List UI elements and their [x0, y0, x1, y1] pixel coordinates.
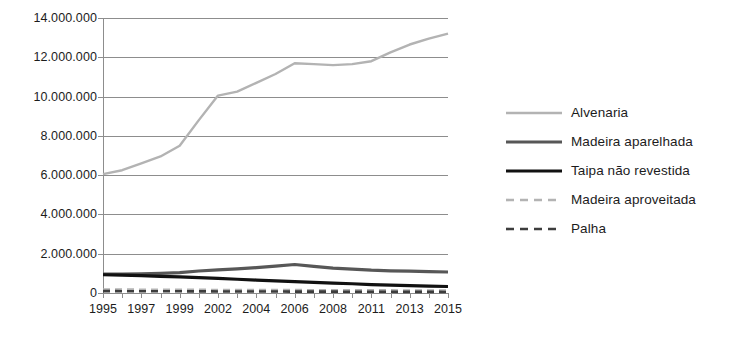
y-axis-tick-label: 4.000.000	[40, 207, 97, 221]
y-axis-tick-label: 10.000.000	[33, 90, 97, 104]
y-axis-tick-label: 14.000.000	[33, 11, 97, 25]
x-axis-tick-label: 1997	[127, 302, 155, 316]
series-line-taipa-no-revestida	[103, 275, 448, 287]
x-tick-mark	[276, 293, 277, 298]
x-axis-tick-label: 1995	[89, 302, 117, 316]
x-axis-tick-label: 1999	[166, 302, 194, 316]
series-line-palha	[103, 291, 448, 292]
y-axis-tick-label: 6.000.000	[40, 168, 97, 182]
legend-swatch-icon	[506, 164, 562, 178]
x-tick-mark	[410, 293, 411, 298]
series-line-alvenaria	[103, 34, 448, 174]
y-axis-tick-label: 8.000.000	[40, 129, 97, 143]
x-tick-mark	[180, 293, 181, 298]
legend-swatch-icon	[506, 222, 562, 236]
legend-item-label: Madeira aparelhada	[571, 134, 693, 149]
x-tick-mark	[333, 293, 334, 298]
x-tick-mark	[141, 293, 142, 298]
legend-item-label: Taipa não revestida	[571, 163, 690, 178]
x-axis-tick-label: 2006	[281, 302, 309, 316]
plot-area	[103, 18, 448, 293]
x-axis-tick-label: 2008	[319, 302, 347, 316]
x-tick-mark	[352, 293, 353, 298]
x-axis-tick-label: 2004	[242, 302, 270, 316]
x-tick-mark	[314, 293, 315, 298]
x-tick-mark	[199, 293, 200, 298]
y-axis-tick-label: 0	[90, 286, 97, 300]
x-tick-mark	[161, 293, 162, 298]
line-chart-figure: 02.000.0004.000.0006.000.0008.000.00010.…	[0, 0, 500, 338]
legend-swatch-icon	[506, 135, 562, 149]
x-axis-tick-label: 2013	[396, 302, 424, 316]
x-tick-mark	[371, 293, 372, 298]
x-tick-mark	[256, 293, 257, 298]
y-axis-tick-label: 2.000.000	[40, 247, 97, 261]
legend-swatch-icon	[506, 193, 562, 207]
x-tick-mark	[429, 293, 430, 298]
legend-item-palha[interactable]: Palha	[506, 214, 738, 243]
x-axis-tick-label: 2002	[204, 302, 232, 316]
legend-item-label: Palha	[571, 221, 606, 236]
x-tick-mark	[295, 293, 296, 298]
series-lines	[103, 18, 448, 293]
legend-swatch-icon	[506, 106, 562, 120]
series-line-madeira-aparelhada	[103, 265, 448, 275]
x-tick-mark	[218, 293, 219, 298]
y-axis-tick-label: 12.000.000	[33, 50, 97, 64]
x-axis-tick-label: 2011	[358, 302, 385, 316]
x-tick-mark	[122, 293, 123, 298]
x-axis-tick-label: 2015	[434, 302, 462, 316]
chart-screenshot: 02.000.0004.000.0006.000.0008.000.00010.…	[0, 0, 738, 338]
x-tick-mark	[103, 293, 104, 298]
x-tick-mark	[448, 293, 449, 298]
x-tick-mark	[237, 293, 238, 298]
legend-item-label: Madeira aproveitada	[571, 192, 696, 207]
legend-item-madeira-aproveitada[interactable]: Madeira aproveitada	[506, 185, 738, 214]
legend-item-alvenaria[interactable]: Alvenaria	[506, 98, 738, 127]
legend-item-taipa-no-revestida[interactable]: Taipa não revestida	[506, 156, 738, 185]
legend-item-label: Alvenaria	[571, 105, 628, 120]
legend-item-madeira-aparelhada[interactable]: Madeira aparelhada	[506, 127, 738, 156]
x-tick-mark	[391, 293, 392, 298]
y-axis-tick-labels: 02.000.0004.000.0006.000.0008.000.00010.…	[0, 0, 97, 338]
chart-legend: AlvenariaMadeira aparelhadaTaipa não rev…	[506, 98, 738, 243]
